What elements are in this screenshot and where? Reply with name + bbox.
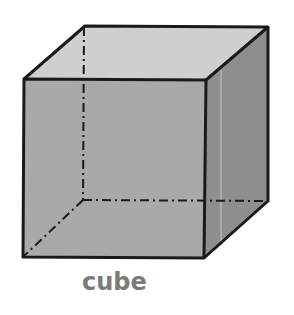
shape-label: cube	[82, 268, 152, 296]
